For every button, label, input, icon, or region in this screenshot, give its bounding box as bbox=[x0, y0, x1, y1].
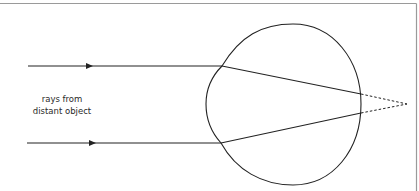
lower-virtual-ray bbox=[361, 104, 407, 113]
rays-label-line1: rays from bbox=[17, 93, 107, 105]
lower-refracted-ray bbox=[221, 113, 361, 143]
upper-refracted-ray bbox=[222, 66, 361, 94]
upper-arrowhead-icon bbox=[86, 63, 93, 69]
diagram-canvas: rays from distant object bbox=[0, 0, 419, 191]
rays-label: rays from distant object bbox=[17, 93, 107, 117]
rays-label-line2: distant object bbox=[17, 105, 107, 117]
eyeball-outline bbox=[206, 24, 361, 185]
lower-arrowhead-icon bbox=[89, 140, 96, 146]
upper-virtual-ray bbox=[361, 94, 407, 104]
